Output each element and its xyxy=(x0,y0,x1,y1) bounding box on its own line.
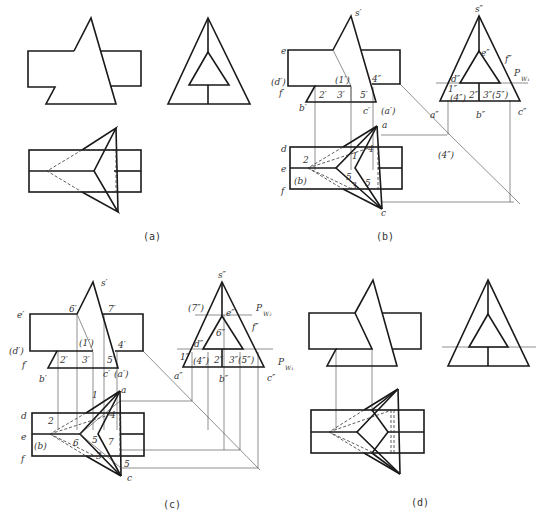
svg-text:c′: c′ xyxy=(103,369,110,379)
svg-text:1: 1 xyxy=(352,151,358,161)
c-front-view xyxy=(30,282,118,368)
svg-text:b″: b″ xyxy=(219,374,229,384)
svg-text:(7″): (7″) xyxy=(188,303,205,313)
svg-text:W₁: W₁ xyxy=(521,75,530,82)
svg-text:5′: 5′ xyxy=(360,90,368,100)
svg-text:1: 1 xyxy=(92,390,98,400)
a-top-view xyxy=(29,128,141,212)
a-side-inner-triangle xyxy=(189,52,229,85)
caption-d: (d) xyxy=(411,497,429,508)
svg-text:c′: c′ xyxy=(363,106,370,116)
b-labels: s′ e (d′) f′ b′ (1′) 2′ 3′ 4″ 5′ c′ (a′)… xyxy=(271,4,530,218)
panel-b: s′ e (d′) f′ b′ (1′) 2′ 3′ 4″ 5′ c′ (a′)… xyxy=(271,4,530,242)
caption-c: (c) xyxy=(163,499,181,510)
svg-text:4″: 4″ xyxy=(371,74,382,84)
svg-text:e: e xyxy=(21,432,26,442)
svg-text:5: 5 xyxy=(365,178,371,188)
svg-text:a″: a″ xyxy=(174,371,183,381)
svg-text:(a′): (a′) xyxy=(381,106,396,116)
svg-text:a″: a″ xyxy=(430,110,439,120)
svg-text:W₁: W₁ xyxy=(285,364,294,371)
svg-text:d: d xyxy=(281,144,287,154)
caption-b: (b) xyxy=(376,231,394,242)
svg-text:5: 5 xyxy=(92,435,98,445)
svg-text:c: c xyxy=(127,473,132,483)
svg-text:c″: c″ xyxy=(518,107,527,117)
svg-text:P: P xyxy=(277,357,285,367)
svg-text:a: a xyxy=(121,385,126,395)
svg-text:6′: 6′ xyxy=(69,304,77,314)
svg-text:e: e xyxy=(281,46,286,56)
svg-text:6: 6 xyxy=(73,438,79,448)
svg-text:2′: 2′ xyxy=(318,90,327,100)
svg-text:3″(5″): 3″(5″) xyxy=(229,355,255,365)
svg-text:e″: e″ xyxy=(481,48,490,58)
svg-text:f′: f′ xyxy=(21,360,27,370)
svg-text:f: f xyxy=(280,186,286,196)
svg-text:W₂: W₂ xyxy=(263,310,272,317)
panel-c: s′ e′ 6′ 7′ (1′) 4′ (d′) f′ 2′ 3′ 5′ b′ … xyxy=(9,270,294,510)
svg-text:c: c xyxy=(381,208,386,218)
svg-text:4: 4 xyxy=(367,144,374,154)
svg-text:(b): (b) xyxy=(34,441,47,451)
svg-text:(4″): (4″) xyxy=(450,93,467,103)
c-labels: s′ e′ 6′ 7′ (1′) 4′ (d′) f′ 2′ 3′ 5′ b′ … xyxy=(9,270,294,483)
svg-text:P: P xyxy=(513,68,521,78)
svg-text:(a′): (a′) xyxy=(114,369,129,379)
svg-text:3′: 3′ xyxy=(82,355,90,365)
svg-text:4: 4 xyxy=(109,410,116,420)
svg-text:s″: s″ xyxy=(475,4,484,14)
svg-text:e″: e″ xyxy=(226,308,235,318)
svg-text:c″: c″ xyxy=(267,373,276,383)
svg-text:f′: f′ xyxy=(278,88,284,98)
svg-text:P: P xyxy=(255,303,263,313)
a-side-outer-triangle xyxy=(168,18,250,104)
svg-text:d″: d″ xyxy=(194,339,204,349)
svg-text:3″(5″): 3″(5″) xyxy=(483,90,509,100)
a-front-view xyxy=(28,18,116,104)
svg-text:a: a xyxy=(382,120,387,130)
svg-text:2: 2 xyxy=(47,416,54,426)
d-front-view xyxy=(309,280,397,366)
svg-text:7′: 7′ xyxy=(108,304,116,314)
svg-text:5: 5 xyxy=(346,172,352,182)
panel-d: (d) xyxy=(309,280,536,508)
svg-text:f: f xyxy=(20,454,26,464)
svg-text:(d′): (d′) xyxy=(9,346,24,356)
svg-text:e: e xyxy=(281,164,286,174)
svg-text:d: d xyxy=(21,411,27,421)
panel-a: (a) xyxy=(28,18,250,242)
svg-text:s′: s′ xyxy=(101,278,108,288)
d-side-inner-triangle xyxy=(469,314,508,347)
svg-text:(1′): (1′) xyxy=(335,75,350,85)
svg-text:d″: d″ xyxy=(451,74,461,84)
svg-text:2″: 2″ xyxy=(213,355,224,365)
svg-text:b″: b″ xyxy=(476,110,486,120)
svg-text:e′: e′ xyxy=(17,310,24,320)
svg-text:2′: 2′ xyxy=(59,355,68,365)
svg-text:s″: s″ xyxy=(218,270,227,280)
svg-text:5: 5 xyxy=(124,459,130,469)
svg-text:6″: 6″ xyxy=(216,328,226,338)
svg-text:b′: b′ xyxy=(299,103,307,113)
svg-text:(d′): (d′) xyxy=(271,77,286,87)
svg-text:4′: 4′ xyxy=(117,340,126,350)
svg-text:2: 2 xyxy=(302,155,309,165)
svg-text:5′: 5′ xyxy=(107,355,115,365)
svg-text:(4″): (4″) xyxy=(193,356,210,366)
svg-text:f″: f″ xyxy=(251,322,259,332)
svg-text:3: 3 xyxy=(351,181,357,191)
svg-text:(b): (b) xyxy=(294,176,307,186)
svg-text:(4″): (4″) xyxy=(438,150,455,160)
svg-text:3′: 3′ xyxy=(337,90,345,100)
svg-text:s′: s′ xyxy=(355,8,362,18)
b-top-view xyxy=(290,126,402,209)
svg-text:b′: b′ xyxy=(39,374,47,384)
svg-text:f″: f″ xyxy=(504,54,512,64)
d-projection-lines xyxy=(336,347,536,430)
d-top-view xyxy=(311,389,424,474)
b-side-inner-triangle xyxy=(460,51,500,83)
svg-text:2″: 2″ xyxy=(468,90,479,100)
svg-text:1″: 1″ xyxy=(180,352,190,362)
caption-a: (a) xyxy=(143,231,161,242)
